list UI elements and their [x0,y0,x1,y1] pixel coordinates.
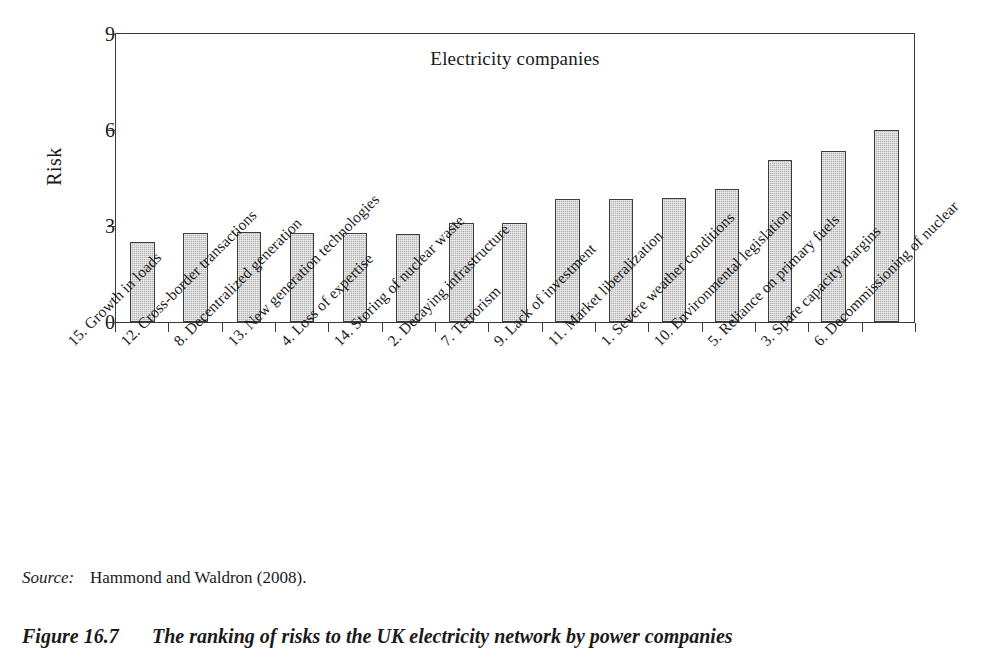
x-tick-mark-12 [755,323,756,332]
x-tick-mark-1 [168,323,169,332]
x-tick-mark-7 [488,323,489,332]
y-axis-label: Risk [43,107,66,227]
figure-container: Risk 9630 Electricity companies 15. Grow… [0,0,1000,666]
x-tick-mark-4 [328,323,329,332]
x-tick-mark-0 [115,323,116,332]
source-text: Hammond and Waldron (2008). [90,568,306,587]
x-tick-mark-13 [808,323,809,332]
x-tick-mark-8 [542,323,543,332]
x-tick-mark-5 [382,323,383,332]
x-tick-mark-15 [915,323,916,332]
source-line: Source:Hammond and Waldron (2008). [22,568,306,588]
x-axis-labels: 15. Growth in loads12. Cross-border tran… [0,333,1000,533]
x-tick-mark-14 [862,323,863,332]
x-tick-mark-2 [222,323,223,332]
x-tick-mark-9 [595,323,596,332]
bar[interactable] [768,160,792,322]
x-tick-mark-3 [275,323,276,332]
x-tick-mark-6 [435,323,436,332]
figure-number: Figure 16.7 [22,625,152,648]
figure-caption: Figure 16.7The ranking of risks to the U… [22,625,733,648]
bar-slot [488,34,541,322]
figure-caption-text: The ranking of risks to the UK electrici… [152,625,733,647]
source-label: Source: [22,568,90,588]
y-axis-ticks: 9630 [70,33,115,323]
x-tick-mark-10 [648,323,649,332]
x-tick-mark-11 [702,323,703,332]
